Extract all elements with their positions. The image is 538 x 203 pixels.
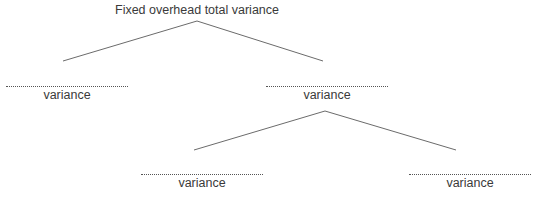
connector-level1 bbox=[63, 21, 323, 61]
diagram-title: Fixed overhead total variance bbox=[0, 3, 394, 17]
fill-in-blank bbox=[141, 171, 263, 175]
fill-in-blank bbox=[266, 83, 388, 87]
node-label: variance bbox=[6, 88, 128, 102]
node-right-level1: variance bbox=[266, 83, 388, 102]
node-label: variance bbox=[266, 88, 388, 102]
node-label: variance bbox=[141, 176, 263, 190]
node-right-level2: variance bbox=[409, 171, 531, 190]
node-label: variance bbox=[409, 176, 531, 190]
node-left-level1: variance bbox=[6, 83, 128, 102]
fill-in-blank bbox=[6, 83, 128, 87]
node-left-level2: variance bbox=[141, 171, 263, 190]
fill-in-blank bbox=[409, 171, 531, 175]
connector-level2 bbox=[194, 111, 456, 150]
